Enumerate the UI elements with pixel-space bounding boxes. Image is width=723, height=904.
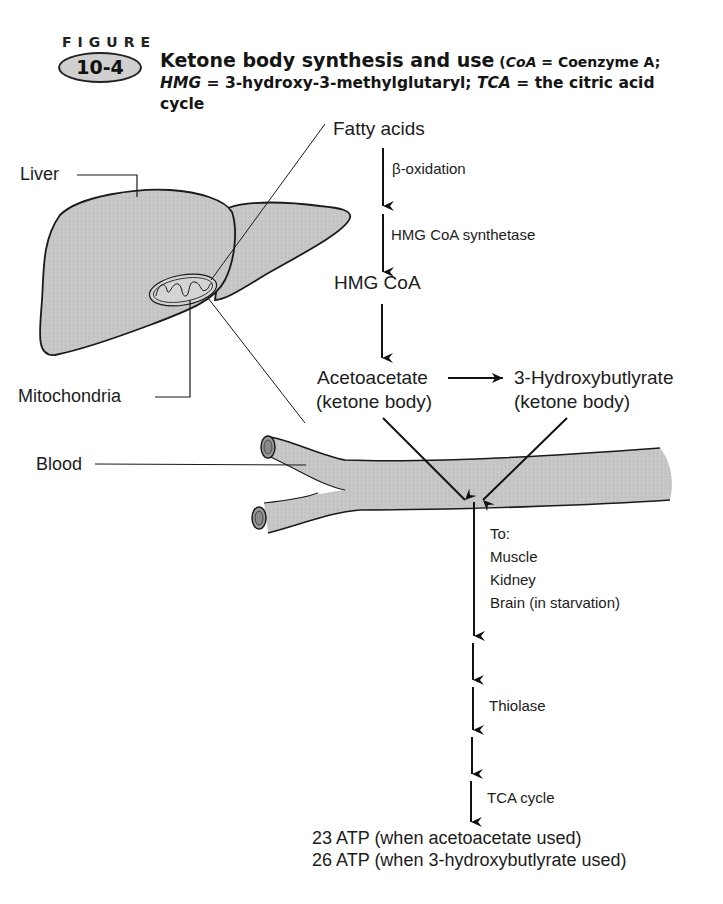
zoom-line-bottom xyxy=(208,298,305,423)
label-liver: Liver xyxy=(20,164,59,185)
liver-left-lobe xyxy=(40,190,235,355)
label-acetoacetate: Acetoacetate xyxy=(317,367,428,389)
label-destinations-header: To: xyxy=(490,525,510,542)
label-acetoacetate-note: (ketone body) xyxy=(316,391,432,413)
label-hydroxybutyrate: 3-Hydroxybutlyrate xyxy=(514,367,673,389)
blood-leader xyxy=(95,464,306,465)
label-thiolase: Thiolase xyxy=(489,697,546,714)
label-mitochondria: Mitochondria xyxy=(18,386,121,407)
label-hydroxybutyrate-note: (ketone body) xyxy=(514,391,630,413)
label-tca-cycle: TCA cycle xyxy=(487,789,555,806)
label-destination-muscle: Muscle xyxy=(490,548,538,565)
label-atp-acetoacetate: 23 ATP (when acetoacetate used) xyxy=(312,828,582,849)
label-atp-hydroxybutyrate: 26 ATP (when 3-hydroxybutlyrate used) xyxy=(312,850,627,871)
label-destination-brain: Brain (in starvation) xyxy=(490,594,620,611)
label-beta-oxidation: β-oxidation xyxy=(392,160,466,177)
label-fatty-acids: Fatty acids xyxy=(333,118,425,140)
liver-right-lobe xyxy=(215,203,350,301)
label-hmg-coa-synthetase: HMG CoA synthetase xyxy=(391,226,535,243)
label-hmg-coa: HMG CoA xyxy=(334,272,421,294)
label-destination-kidney: Kidney xyxy=(490,571,536,588)
label-blood: Blood xyxy=(36,454,82,475)
